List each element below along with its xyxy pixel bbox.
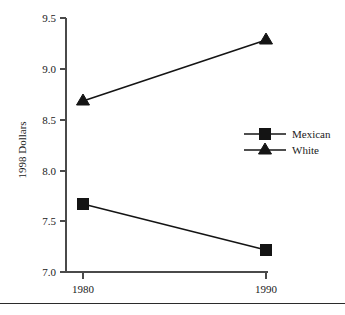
legend-label-mexican: Mexican [292, 128, 331, 140]
figure-container: 9.5 9.0 8.5 8.0 7.5 7.0 1980 1990 1998 D… [0, 0, 345, 315]
y-tick-label-7-5: 7.5 [42, 215, 56, 227]
legend-label-white: White [292, 144, 319, 156]
y-tick-label-8-0: 8.0 [42, 165, 56, 177]
series-line-mexican [83, 204, 266, 250]
data-point-white-1990 [260, 33, 273, 44]
y-tick-label-8-5: 8.5 [42, 114, 56, 126]
x-tick-label-1980: 1980 [72, 283, 95, 295]
line-chart: 9.5 9.0 8.5 8.0 7.5 7.0 1980 1990 1998 D… [0, 0, 345, 315]
y-tick-label-7-0: 7.0 [42, 266, 56, 278]
legend-marker-triangle-icon [259, 143, 272, 154]
data-point-mexican-1980 [78, 199, 89, 210]
x-tick-label-1990: 1990 [255, 283, 278, 295]
series-line-white [83, 40, 266, 101]
y-tick-label-9-5: 9.5 [42, 12, 56, 24]
legend-marker-square-icon [260, 129, 271, 140]
y-axis-title: 1998 Dollars [16, 121, 28, 178]
y-tick-label-9-0: 9.0 [42, 63, 56, 75]
legend: Mexican White [244, 128, 331, 156]
data-point-mexican-1990 [261, 245, 272, 256]
